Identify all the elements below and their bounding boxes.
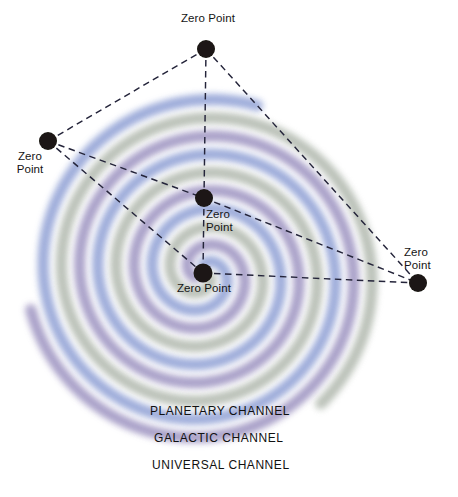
zero-point-label-middle: ZeroPoint xyxy=(206,208,260,233)
channel-label-planetary: PLANETARY CHANNEL xyxy=(150,404,290,418)
zero-point-node-right[interactable] xyxy=(409,274,427,292)
zero-point-node-middle[interactable] xyxy=(195,189,213,207)
zero-point-label-right: ZeroPoint xyxy=(404,246,458,271)
zero-point-label-left: ZeroPoint xyxy=(3,150,57,175)
channel-label-universal: UNIVERSAL CHANNEL xyxy=(152,458,290,472)
channel-label-galactic: GALACTIC CHANNEL xyxy=(154,431,284,445)
zero-point-label-top: Zero Point xyxy=(168,12,248,25)
zero-point-label-center: Zero Point xyxy=(163,282,245,295)
spiral-graphic xyxy=(0,0,458,497)
zero-point-node-left[interactable] xyxy=(39,132,57,150)
zero-point-node-top[interactable] xyxy=(197,40,215,58)
zero-point-node-center[interactable] xyxy=(194,264,213,283)
spiral-diagram: Zero Point ZeroPoint ZeroPoint Zero Poin… xyxy=(0,0,458,497)
